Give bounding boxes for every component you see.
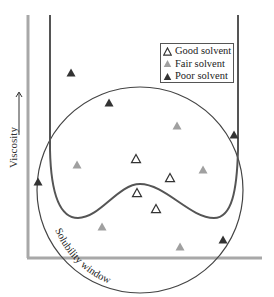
fair-solvent-marker bbox=[73, 161, 82, 169]
legend-item-poor: Poor solvent bbox=[163, 70, 231, 83]
fair-solvent-marker bbox=[173, 122, 182, 130]
poor-solvent-marker bbox=[219, 236, 228, 244]
legend-label: Good solvent bbox=[175, 45, 231, 58]
data-points bbox=[34, 69, 239, 251]
solubility-window-circle bbox=[37, 87, 243, 293]
legend-label: Poor solvent bbox=[175, 70, 228, 83]
poor-solvent-marker bbox=[34, 178, 43, 186]
legend-item-fair: Fair solvent bbox=[163, 58, 231, 71]
poor-solvent-marker bbox=[105, 99, 114, 107]
legend-item-good: Good solvent bbox=[163, 45, 231, 58]
open-triangle-icon bbox=[163, 47, 172, 56]
poor-solvent-marker bbox=[67, 69, 76, 77]
good-solvent-marker bbox=[133, 189, 142, 197]
gray-triangle-icon bbox=[163, 59, 172, 68]
good-solvent-marker bbox=[132, 155, 141, 163]
good-solvent-marker bbox=[152, 205, 161, 213]
solubility-window-label: Solubility window bbox=[53, 226, 113, 285]
good-solvent-marker bbox=[166, 174, 175, 182]
fair-solvent-marker bbox=[98, 223, 107, 231]
legend-label: Fair solvent bbox=[175, 58, 225, 71]
dark-triangle-icon bbox=[163, 72, 172, 81]
legend: Good solvent Fair solvent Poor solvent bbox=[160, 43, 234, 83]
y-axis-label: Viscosity bbox=[7, 127, 19, 168]
fair-solvent-marker bbox=[199, 166, 208, 174]
fair-solvent-marker bbox=[176, 243, 185, 251]
